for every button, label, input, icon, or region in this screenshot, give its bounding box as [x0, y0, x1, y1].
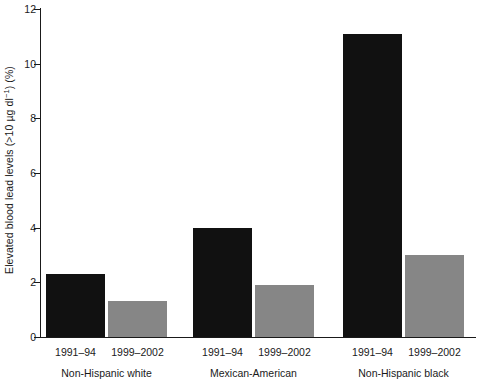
x-axis-group-label: Non-Hispanic black	[318, 366, 484, 380]
y-axis-title-suffix: ) (%)	[3, 66, 15, 89]
y-axis-tick-label: 8	[30, 111, 36, 125]
x-axis-line	[40, 337, 476, 338]
bar	[405, 255, 464, 337]
plot-area: 024681012 1991–941999–2002Non-Hispanic w…	[40, 8, 476, 338]
x-axis-group-label: Mexican-American	[168, 366, 339, 380]
bar	[343, 34, 402, 337]
bar	[108, 301, 167, 337]
x-axis-period-label: 1999–2002	[96, 345, 179, 359]
y-axis-tick-label: 4	[30, 221, 36, 235]
y-axis-tick-label: 2	[30, 275, 36, 289]
y-axis-line	[40, 8, 41, 338]
y-axis-tick-label: 6	[30, 166, 36, 180]
x-axis-period-label: 1999–2002	[243, 345, 326, 359]
y-axis-tick-label: 0	[30, 330, 36, 344]
bar	[193, 228, 252, 337]
bar-chart: Elevated blood lead levels (>10 µg dl−1)…	[0, 0, 484, 380]
y-axis-title-superscript: −1	[2, 89, 11, 98]
x-axis-period-label: 1999–2002	[393, 345, 476, 359]
bar	[46, 274, 105, 337]
y-axis-title-prefix: Elevated blood lead levels (>10 µg dl	[3, 98, 15, 274]
bar	[255, 285, 314, 337]
y-axis-tick-label: 10	[24, 57, 36, 71]
y-axis-title: Elevated blood lead levels (>10 µg dl−1)…	[0, 0, 18, 340]
y-axis-tick-label: 12	[24, 2, 36, 16]
x-axis-group-label: Non-Hispanic white	[21, 366, 192, 380]
